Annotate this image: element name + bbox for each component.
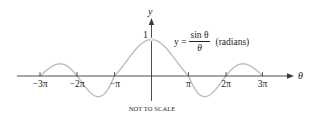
- x-tick-pi: π: [186, 80, 191, 90]
- x-tick-neg-pi: −π: [110, 80, 120, 90]
- plot-canvas: [0, 0, 318, 118]
- equation-label: y = sin θ θ (radians): [174, 30, 249, 53]
- x-tick-2pi: 2π: [221, 80, 231, 90]
- y-axis-arrow-icon: [149, 18, 154, 25]
- x-axis-arrow-icon: [287, 73, 294, 78]
- equation-numerator: sin θ: [189, 30, 209, 42]
- open-point-marker: [150, 38, 153, 41]
- x-tick-neg-2pi: −2π: [70, 80, 85, 90]
- equation-lhs: y =: [174, 37, 186, 47]
- y-axis-label: y: [148, 7, 152, 17]
- x-tick-3pi: 3π: [258, 80, 268, 90]
- y-tick-one: 1: [143, 30, 148, 40]
- x-tick-neg-3pi: −3π: [33, 80, 48, 90]
- equation-note: (radians): [216, 37, 250, 47]
- equation-denominator: θ: [197, 42, 202, 53]
- x-axis-label: θ: [298, 71, 303, 81]
- not-to-scale-note: NOT TO SCALE: [129, 105, 176, 112]
- sinc-diagram: y 1 θ −3π −2π −π π 2π 3π y = sin θ θ (ra…: [0, 0, 318, 118]
- equation-fraction: sin θ θ: [189, 30, 209, 53]
